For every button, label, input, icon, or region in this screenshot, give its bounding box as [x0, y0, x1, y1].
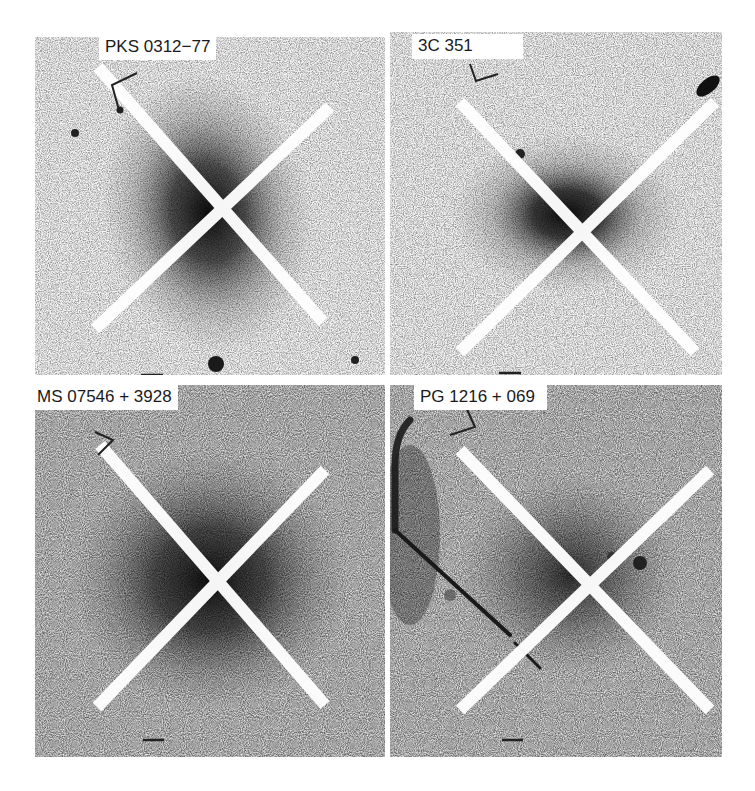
panel-label: 3C 351	[412, 34, 523, 59]
panel-label: MS 07546 + 3928	[35, 385, 178, 410]
panel-label: PKS 0312−77	[99, 37, 216, 60]
galaxy-image	[35, 37, 385, 375]
panel-pks-0312-77: PKS 0312−77	[35, 37, 385, 375]
panel-ms-07546-3928: MS 07546 + 3928	[35, 385, 385, 757]
panel-pg-1216-069: PG 1216 + 069	[390, 385, 722, 757]
panel-3c-351: 3C 351	[390, 32, 722, 375]
galaxy-image	[390, 385, 722, 757]
galaxy-image	[390, 32, 722, 375]
panel-label: PG 1216 + 069	[414, 385, 547, 410]
quasar-host-galaxy-figure: PKS 0312−77	[0, 0, 755, 791]
galaxy-image	[35, 385, 385, 757]
